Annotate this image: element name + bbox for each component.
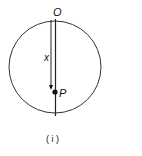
label-x: x (43, 52, 50, 63)
label-p: P (59, 87, 67, 99)
point-p-dot (52, 89, 57, 94)
caption: ( i ) (46, 134, 59, 144)
arrow-head-icon (49, 85, 53, 90)
label-o: O (53, 6, 62, 18)
diagram-canvas: O x P ( i ) (0, 0, 142, 156)
